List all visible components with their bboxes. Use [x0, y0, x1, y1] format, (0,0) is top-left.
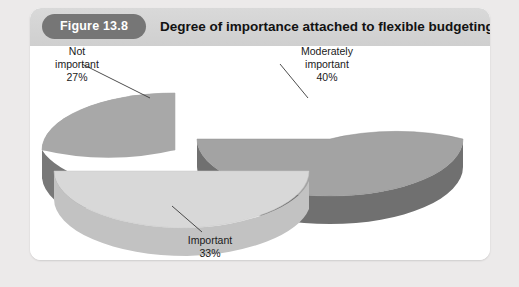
figure-container: Figure 13.8 Degree of importance attache… [0, 0, 519, 287]
pie-label-moderately-important-percent: 40% [316, 71, 337, 83]
figure-number-badge: Figure 13.8 [42, 14, 146, 39]
pie-label-not-important-line2: important [55, 58, 99, 70]
pie-label-not-important-percent: 27% [66, 71, 87, 83]
pie-label-not-important: Not important 27% [55, 46, 99, 83]
pie-label-moderately-important-line2: important [305, 58, 349, 70]
figure-panel: Figure 13.8 Degree of importance attache… [30, 8, 490, 260]
pie-slice-not-important-top-body [42, 93, 175, 158]
figure-title: Degree of importance attached to flexibl… [160, 17, 490, 36]
figure-header-band: Figure 13.8 Degree of importance attache… [30, 8, 490, 46]
pie-label-not-important-line1: Not [69, 46, 85, 57]
leader-line-moderately-important [280, 64, 308, 98]
pie-label-moderately-important-line1: Moderately [301, 46, 354, 57]
pie-label-important-line1: Important [188, 234, 232, 246]
pie-label-moderately-important: Moderately important 40% [301, 46, 354, 83]
pie-slice-important[interactable] [54, 171, 309, 256]
pie-chart-svg: Not important 27% Moderately important 4… [30, 46, 490, 260]
pie-chart-area: Not important 27% Moderately important 4… [30, 46, 490, 260]
pie-label-important-percent: 33% [199, 247, 220, 259]
